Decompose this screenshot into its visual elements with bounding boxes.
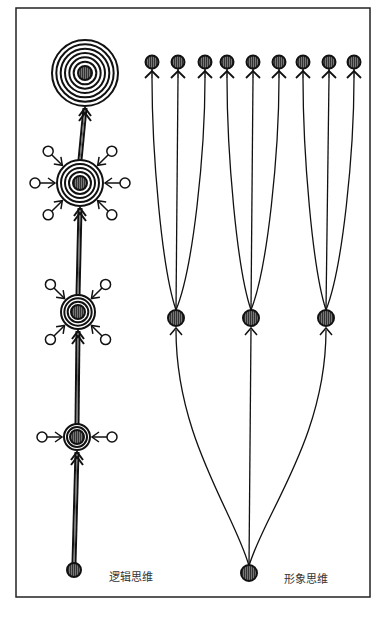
satellite-circle [45, 279, 55, 289]
middle-node-dot [243, 310, 259, 326]
top-node [145, 56, 159, 79]
satellite-circle [107, 210, 117, 220]
image-thinking-label: 形象思维 [284, 570, 328, 586]
core-dot [70, 430, 84, 444]
branch-line [176, 330, 249, 566]
core-dot [78, 66, 92, 80]
logical-thinking-chain [30, 40, 130, 577]
top-node [246, 56, 260, 79]
top-node [347, 56, 361, 79]
branch-line [326, 78, 329, 310]
node-dot [172, 56, 185, 69]
node-dot [323, 56, 336, 69]
branch-line [176, 78, 205, 310]
satellite-circle [101, 279, 111, 289]
thinking-diagram [0, 0, 379, 617]
satellite-circle [43, 146, 53, 156]
branch-line [251, 78, 253, 310]
branch-line [251, 78, 279, 310]
satellite-circle [107, 432, 117, 442]
branch-line [326, 78, 354, 310]
node-dot [297, 56, 310, 69]
branch-line [152, 78, 176, 310]
image-thinking-tree [145, 56, 361, 582]
node-dot [273, 56, 286, 69]
top-node [322, 56, 336, 79]
logical-stage-node [37, 424, 117, 450]
top-node [198, 56, 212, 79]
core-dot [71, 305, 85, 319]
satellite-circle [43, 210, 53, 220]
shaft-line [76, 331, 77, 424]
satellite-circle [37, 432, 47, 442]
node-dot [221, 56, 234, 69]
branch-line [303, 78, 326, 310]
middle-node-dot [318, 310, 334, 326]
middle-node-dot [168, 310, 184, 326]
node-dot [348, 56, 361, 69]
base-node [67, 563, 81, 577]
top-node [272, 56, 286, 79]
node-dot [247, 56, 260, 69]
branch-line [249, 330, 251, 566]
logical-thinking-label: 逻辑思维 [109, 568, 153, 584]
logical-stage-node [52, 40, 118, 106]
core-dot [73, 176, 87, 190]
branch-line [249, 330, 326, 566]
top-node [171, 56, 185, 79]
top-node [220, 56, 234, 79]
top-node [296, 56, 310, 79]
base-node [241, 565, 257, 581]
shaft-line [79, 331, 80, 424]
branch-line [227, 78, 251, 310]
satellite-circle [107, 146, 117, 156]
satellite-circle [30, 178, 40, 188]
satellite-circle [120, 178, 130, 188]
node-dot [199, 56, 212, 69]
satellite-circle [101, 335, 111, 345]
satellite-circle [45, 335, 55, 345]
branch-line [176, 78, 178, 310]
node-dot [146, 56, 159, 69]
